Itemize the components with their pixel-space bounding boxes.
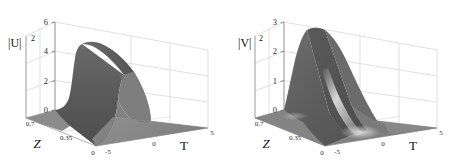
panel-u-zaxis-title-exponent: 2 xyxy=(31,34,35,43)
panel-v-xtick-035: 0.35 xyxy=(289,134,302,142)
panel-u-svg: 6 4 2 0 0.7 0.35 0 -5 0 5 Z T |U| 2 xyxy=(0,0,229,167)
figure-container: 6 4 2 0 0.7 0.35 0 -5 0 5 Z T |U| 2 xyxy=(0,0,458,167)
panel-v-xaxis-label: Z xyxy=(262,136,270,151)
panel-u-yaxis-label: T xyxy=(180,138,188,153)
panel-v-zaxis-title-exponent: 2 xyxy=(259,34,263,43)
panel-u-xtick-07: 0.7 xyxy=(26,120,35,128)
panel-v-ztick-1: 1 xyxy=(273,76,277,86)
panel-v-yaxis-label: T xyxy=(409,138,417,153)
panel-v-ytick-5: 5 xyxy=(439,129,443,137)
panel-v-surface-plot: 3 2 1 0 0.7 0.35 0 -5 0 5 Z T |V| 2 xyxy=(229,0,458,167)
panel-v-ytick-neg5: -5 xyxy=(334,148,340,156)
panel-u-ztick-2: 2 xyxy=(44,76,48,86)
panel-v-ztick-3: 3 xyxy=(273,17,277,27)
panel-u-ztick-4: 4 xyxy=(44,46,49,56)
panel-v-z-ticks: 3 2 1 0 xyxy=(273,17,284,115)
panel-u-zaxis-title-text: |U| xyxy=(8,36,21,50)
panel-v-xtick-0: 0 xyxy=(320,149,324,157)
panel-v-ztick-0: 0 xyxy=(273,105,277,115)
panel-u-ztick-6: 6 xyxy=(44,17,48,27)
panel-u-ytick-neg5: -5 xyxy=(105,148,111,156)
panel-u-surface-mesh xyxy=(26,42,208,146)
panel-v-surface-mesh xyxy=(255,28,437,146)
panel-v-svg: 3 2 1 0 0.7 0.35 0 -5 0 5 Z T |V| 2 xyxy=(229,0,458,167)
panel-v-ytick-0: 0 xyxy=(381,140,385,148)
panel-u-surface-plot: 6 4 2 0 0.7 0.35 0 -5 0 5 Z T |U| 2 xyxy=(0,0,229,167)
panel-u-xtick-0: 0 xyxy=(91,149,95,157)
panel-v-zaxis-title-text: |V| xyxy=(238,36,251,50)
panel-u-zaxis-title: |U| 2 xyxy=(8,34,35,50)
panel-v-xtick-07: 0.7 xyxy=(255,120,264,128)
panel-u-ytick-5: 5 xyxy=(210,129,214,137)
panel-u-z-ticks: 6 4 2 0 xyxy=(44,17,55,115)
panel-v-zaxis-title: |V| 2 xyxy=(238,34,263,50)
panel-u-ztick-0: 0 xyxy=(44,105,48,115)
panel-v-ztick-2: 2 xyxy=(273,46,277,56)
panel-u-xtick-035: 0.35 xyxy=(60,134,73,142)
panel-u-xaxis-label: Z xyxy=(33,136,41,151)
panel-u-ytick-0: 0 xyxy=(152,140,156,148)
